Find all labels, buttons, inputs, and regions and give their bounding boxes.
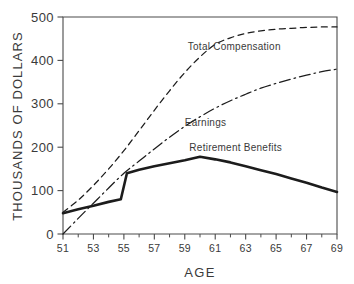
x-tick-label: 51 <box>57 242 69 254</box>
x-tick-label: 63 <box>240 242 252 254</box>
line-chart: 0100200300400500 51535557596163656769 To… <box>0 0 354 284</box>
x-tick-label: 67 <box>300 242 312 254</box>
x-tick-label: 65 <box>270 242 282 254</box>
series-label-retirement-benefits: Retirement Benefits <box>189 142 282 153</box>
y-tick-label: 0 <box>46 227 54 242</box>
x-tick-label: 59 <box>179 242 191 254</box>
y-tick-label: 200 <box>31 140 54 155</box>
y-tick-label: 500 <box>31 10 54 25</box>
chart-container: 0100200300400500 51535557596163656769 To… <box>0 0 354 284</box>
x-tick-label: 61 <box>209 242 221 254</box>
x-tick-label: 69 <box>331 242 343 254</box>
y-axis-title: THOUSANDS OF DOLLARS <box>10 31 25 221</box>
y-tick-label: 100 <box>31 183 54 198</box>
series-label-total-compensation: Total Compensation <box>188 41 281 52</box>
y-tick-label: 400 <box>31 53 54 68</box>
x-tick-label: 53 <box>87 242 99 254</box>
x-tick-label: 57 <box>148 242 160 254</box>
y-tick-label: 300 <box>31 96 54 111</box>
x-tick-label: 55 <box>118 242 130 254</box>
x-axis-title: AGE <box>184 265 216 280</box>
series-label-earnings: Earnings <box>185 117 226 128</box>
